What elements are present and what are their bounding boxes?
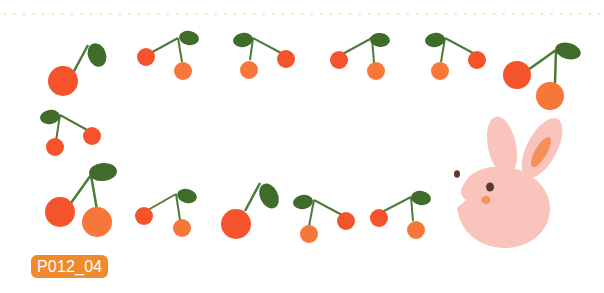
cherry-frame-illustration [0,0,604,293]
cherry-icon [48,41,110,96]
cherry-icon [424,31,486,80]
image-code-badge: P012_04 [31,255,108,278]
cherry-icon [232,31,295,79]
bunny-icon [454,112,571,248]
cherry-icon [39,108,101,156]
cherry-icon [137,29,200,80]
cherry-icon [221,180,283,239]
cherry-icon [370,189,432,239]
cherry-icon [292,193,355,243]
cherry-icon [330,32,391,80]
cherry-icon [135,187,198,237]
cherry-icon [503,40,583,110]
cherry-icon [45,162,118,237]
